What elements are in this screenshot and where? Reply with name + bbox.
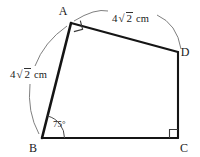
measure-ab-radicand: 2 [25,68,31,80]
measure-ad-radical-symbol: √ [119,12,126,24]
measure-ab-radical-symbol: √ [17,68,24,80]
right-angle-marker-C [170,130,179,139]
measure-ad-unit: cm [136,13,149,24]
geometry-figure: A B C D 75° 4 √ 2 cm 4 √ 2 cm [0,0,200,157]
vertex-label-D: D [181,45,190,59]
vertex-label-B: B [29,141,37,155]
angle-label-B: 75° [53,119,66,129]
measure-ab-unit: cm [34,69,47,80]
vertex-label-C: C [180,141,188,155]
measure-label-AB: 4 √ 2 cm [10,68,47,80]
measure-ab-coefficient: 4 [10,68,16,80]
measure-label-AD: 4 √ 2 cm [112,12,149,24]
vertex-label-A: A [59,4,68,18]
geometry-canvas: A B C D 75° 4 √ 2 cm 4 √ 2 cm [0,0,200,157]
measure-ad-radicand: 2 [127,12,133,24]
edge-DA [71,23,178,52]
measure-ad-coefficient: 4 [112,12,118,24]
